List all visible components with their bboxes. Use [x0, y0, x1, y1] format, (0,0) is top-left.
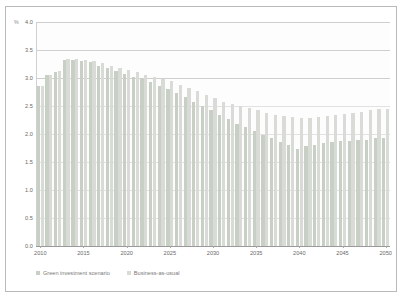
bar	[110, 66, 113, 246]
bar	[45, 75, 48, 246]
chart-legend: Green investment scenario Business-as-us…	[36, 270, 180, 276]
x-tick-label: 2045	[336, 250, 348, 256]
x-tick-mark	[83, 246, 84, 248]
bar	[339, 141, 342, 246]
legend-item-business-as-usual[interactable]: Business-as-usual	[127, 270, 180, 276]
bar	[265, 113, 268, 246]
bar	[296, 149, 299, 246]
bar	[253, 131, 256, 246]
x-tick-mark	[299, 246, 300, 248]
plot-area	[36, 22, 390, 246]
bar	[304, 146, 307, 246]
bar	[209, 110, 212, 246]
bar	[213, 98, 216, 246]
bar	[166, 89, 169, 246]
bar	[179, 85, 182, 246]
x-tick-label: 2025	[164, 250, 176, 256]
bar	[118, 68, 121, 246]
bar	[322, 143, 325, 246]
bar	[63, 60, 66, 246]
bar	[279, 142, 282, 246]
bar	[348, 141, 351, 246]
bar	[291, 117, 294, 246]
bar	[80, 61, 83, 246]
bar	[84, 60, 87, 246]
bar	[187, 88, 190, 246]
bar	[196, 91, 199, 246]
y-tick-label: 0.5	[25, 215, 33, 221]
x-tick-label: 2020	[120, 250, 132, 256]
x-tick-label: 2015	[77, 250, 89, 256]
x-tick-label: 2010	[34, 250, 46, 256]
x-tick-mark	[386, 246, 387, 248]
bar	[136, 72, 139, 246]
y-tick-label: 3.0	[25, 75, 33, 81]
x-tick-label: 2040	[293, 250, 305, 256]
y-axis-line	[36, 22, 37, 247]
legend-label-bau: Business-as-usual	[134, 270, 180, 276]
legend-item-green-investment-scenario[interactable]: Green investment scenario	[36, 270, 110, 276]
bar	[343, 114, 346, 246]
bar	[274, 115, 277, 246]
bar	[300, 118, 303, 246]
y-tick-label: 3.5	[25, 47, 33, 53]
bar	[334, 115, 337, 246]
bar	[49, 75, 52, 246]
legend-swatch-icon-green	[36, 271, 40, 275]
bar	[369, 110, 372, 246]
bar	[140, 79, 143, 246]
bar	[127, 70, 130, 246]
x-tick-label: 2035	[250, 250, 262, 256]
x-tick-mark	[256, 246, 257, 248]
x-tick-mark	[127, 246, 128, 248]
bar	[374, 138, 377, 246]
bar	[170, 81, 173, 246]
bar	[101, 63, 104, 246]
bar	[248, 108, 251, 246]
y-axis-tick-labels: 0.00.51.01.52.02.53.03.54.0	[0, 0, 33, 298]
bar	[317, 117, 320, 246]
legend-swatch-icon-bau	[127, 271, 131, 275]
bar	[377, 109, 380, 246]
bar	[244, 127, 247, 246]
bar	[175, 93, 178, 246]
bar	[386, 109, 389, 246]
bar	[192, 102, 195, 246]
bar	[282, 116, 285, 246]
x-tick-mark	[170, 246, 171, 248]
bar	[270, 138, 273, 246]
bar	[158, 86, 161, 246]
bar	[261, 135, 264, 246]
bar	[184, 97, 187, 246]
y-tick-label: 1.5	[25, 159, 33, 165]
bar	[161, 79, 164, 246]
bar	[360, 112, 363, 246]
bar	[114, 71, 117, 246]
x-tick-mark	[213, 246, 214, 248]
bar	[58, 71, 61, 246]
bar	[66, 59, 69, 246]
bar	[97, 66, 100, 246]
bar	[153, 77, 156, 246]
bar	[75, 59, 78, 246]
bar	[235, 124, 238, 246]
bar	[54, 72, 57, 246]
bar	[231, 104, 234, 246]
bar	[92, 61, 95, 246]
x-tick-mark	[40, 246, 41, 248]
bar	[356, 140, 359, 246]
y-tick-label: 4.0	[25, 19, 33, 25]
bar	[149, 82, 152, 246]
bar	[106, 68, 109, 246]
legend-label-green: Green investment scenario	[43, 270, 110, 276]
y-tick-label: 2.5	[25, 103, 33, 109]
bar	[227, 119, 230, 246]
x-tick-label: 2030	[207, 250, 219, 256]
bar	[382, 138, 385, 246]
bar	[326, 116, 329, 246]
bar	[313, 145, 316, 246]
bar	[239, 106, 242, 246]
bar	[308, 118, 311, 246]
x-axis-tick-labels: 201020152020202520302035204020452050	[36, 250, 390, 262]
bar	[37, 86, 40, 246]
